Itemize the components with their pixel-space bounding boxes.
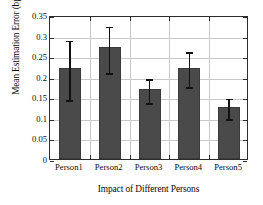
grid-line-vertical: [130, 17, 131, 159]
error-bar-cap-lower: [66, 100, 73, 102]
x-axis-tick-label: Person5: [214, 163, 242, 172]
error-bar-cap-lower: [146, 103, 153, 105]
y-axis-tick-mark: [50, 58, 54, 59]
x-axis-tick-label: Person3: [135, 163, 163, 172]
y-axis-tick-mark: [50, 17, 54, 18]
x-axis-tick-mark: [169, 155, 170, 159]
y-axis-tick-label: 0.15: [32, 94, 47, 103]
y-axis-tick-mark: [243, 161, 247, 162]
y-axis-tick-mark: [243, 120, 247, 121]
error-bar-cap-lower: [226, 119, 233, 121]
error-bar-stem: [228, 99, 230, 119]
y-axis-tick-mark: [50, 120, 54, 121]
y-axis-tick-label: 0.25: [32, 53, 47, 62]
bar-chart-figure: Mean Estimation Error (bpm) 00.050.10.15…: [0, 0, 263, 205]
error-bar-cap-upper: [186, 52, 193, 54]
error-bar-cap-upper: [106, 27, 113, 29]
grid-line-horizontal: [50, 58, 247, 59]
y-axis-tick-label: 0.1: [36, 115, 47, 124]
y-axis-tick-label: 0.3: [36, 32, 47, 41]
y-axis-tick-mark: [50, 161, 54, 162]
y-axis-tick-mark: [243, 17, 247, 18]
x-axis-tick-label: Person4: [174, 163, 202, 172]
y-axis-tick-label: 0.35: [32, 12, 47, 21]
x-axis-tick-label: Person2: [95, 163, 123, 172]
x-axis-tick-label: Person1: [55, 163, 83, 172]
error-bar-cap-upper: [226, 99, 233, 101]
y-axis-tick-label: 0.2: [36, 73, 47, 82]
error-bar-cap-lower: [106, 73, 113, 75]
plot-area: [49, 16, 248, 160]
grid-line-vertical: [90, 17, 91, 159]
x-axis-tick-mark: [209, 17, 210, 21]
y-axis-tick-mark: [243, 58, 247, 59]
x-axis-tick-mark: [169, 17, 170, 21]
y-axis-tick-mark: [50, 140, 54, 141]
x-axis-tick-mark: [90, 155, 91, 159]
y-axis-tick-mark: [50, 38, 54, 39]
y-axis-tick-mark: [243, 79, 247, 80]
error-bar-cap-upper: [66, 41, 73, 43]
error-bar-stem: [69, 41, 71, 100]
error-bar-stem: [109, 27, 111, 73]
y-axis-tick-mark: [50, 79, 54, 80]
y-axis-tick-label: 0: [43, 156, 47, 165]
x-axis-tick-mark: [209, 155, 210, 159]
grid-line-vertical: [169, 17, 170, 159]
y-axis-tick-mark: [243, 140, 247, 141]
grid-line-horizontal: [50, 38, 247, 39]
y-axis-tick-mark: [243, 38, 247, 39]
error-bar-cap-lower: [186, 87, 193, 89]
y-axis-tick-mark: [50, 99, 54, 100]
x-axis-label: Impact of Different Persons: [49, 184, 248, 194]
grid-line-vertical: [209, 17, 210, 159]
error-bar-stem: [149, 79, 151, 103]
y-axis-tick-labels: 00.050.10.150.20.250.30.35: [18, 0, 47, 205]
error-bar-cap-upper: [146, 79, 153, 81]
x-axis-tick-mark: [130, 155, 131, 159]
y-axis-tick-mark: [243, 99, 247, 100]
y-axis-tick-label: 0.05: [32, 135, 47, 144]
error-bar-stem: [189, 52, 191, 87]
x-axis-tick-mark: [130, 17, 131, 21]
x-axis-tick-labels: Person1Person2Person3Person4Person5: [49, 163, 248, 177]
x-axis-tick-mark: [90, 17, 91, 21]
